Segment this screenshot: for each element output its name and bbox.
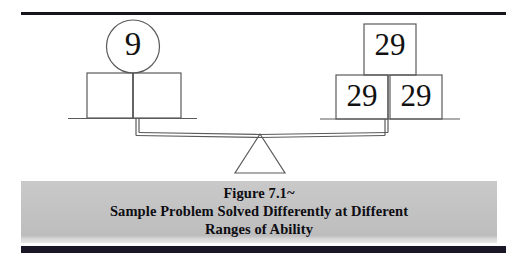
right-box-top-value: 29 (364, 29, 416, 60)
figure-caption-band: Figure 7.1~ Sample Problem Solved Differ… (21, 181, 497, 243)
circle-nine-value: 9 (105, 28, 161, 61)
bottom-divider-bar (21, 246, 506, 253)
balance-beam-inner (139, 133, 388, 135)
caption-line-figure-number: Figure 7.1~ (21, 184, 497, 202)
right-box-bottom-right-value: 29 (390, 80, 442, 111)
balance-scale-diagram (0, 0, 520, 185)
fulcrum-triangle (235, 134, 285, 173)
figure-container: 9 29 29 29 Figure 7.1~ Sample Problem So… (0, 0, 520, 261)
left-box-1 (87, 73, 133, 118)
right-box-bottom-left-value: 29 (336, 80, 388, 111)
caption-line-title-2: Ranges of Ability (21, 220, 497, 238)
left-box-2 (133, 73, 181, 118)
caption-line-title-1: Sample Problem Solved Differently at Dif… (21, 202, 497, 220)
